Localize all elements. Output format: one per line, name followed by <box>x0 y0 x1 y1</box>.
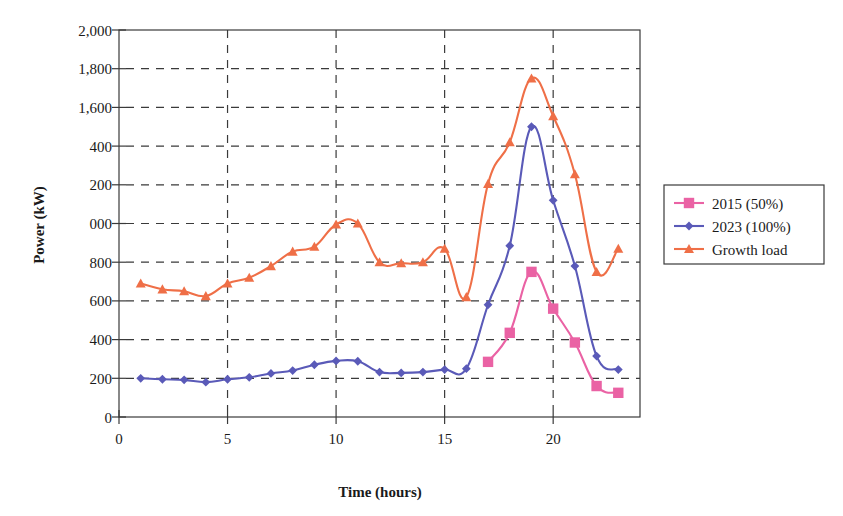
data-point-marker <box>505 328 515 338</box>
data-point-marker <box>591 381 601 391</box>
data-point-marker <box>548 303 558 313</box>
y-axis-title: Power (kW) <box>31 186 48 264</box>
data-point-marker <box>613 388 623 398</box>
x-tick-label: 15 <box>437 431 452 447</box>
data-point-marker <box>526 267 536 277</box>
y-tick-label: 800 <box>90 255 113 271</box>
x-tick-label: 10 <box>329 431 344 447</box>
power-load-line-chart: Power (kW) Time (hours) 0200400600800000… <box>0 0 843 516</box>
x-tick-label: 5 <box>224 431 232 447</box>
data-point-marker <box>483 357 493 367</box>
data-point-marker <box>684 198 694 208</box>
y-tick-label: 200 <box>90 371 113 387</box>
y-tick-label: 400 <box>90 332 113 348</box>
legend-label: Growth load <box>712 242 788 258</box>
y-tick-label: 000 <box>90 216 113 232</box>
y-tick-label: 2,000 <box>78 23 112 39</box>
y-tick-label: 0 <box>105 410 113 426</box>
y-tick-label: 600 <box>90 293 113 309</box>
x-tick-label: 20 <box>546 431 561 447</box>
legend-label: 2015 (50%) <box>712 196 783 213</box>
y-tick-label: 400 <box>90 139 113 155</box>
x-tick-label: 0 <box>115 431 123 447</box>
chart-legend: 2015 (50%)2023 (100%)Growth load <box>664 185 824 264</box>
legend-label: 2023 (100%) <box>712 219 791 236</box>
y-tick-label: 200 <box>90 177 113 193</box>
y-tick-label: 1,800 <box>78 61 112 77</box>
data-point-marker <box>570 337 580 347</box>
x-axis-title: Time (hours) <box>338 484 421 501</box>
y-tick-label: 1,600 <box>78 100 112 116</box>
